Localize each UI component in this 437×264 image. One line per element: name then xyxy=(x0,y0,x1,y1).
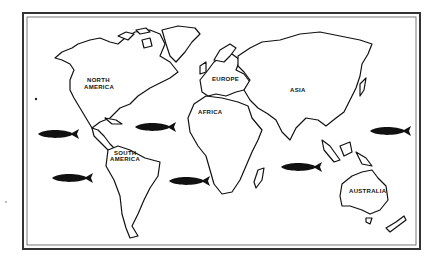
landmass-caribbean xyxy=(105,118,122,124)
fish-icon xyxy=(38,129,79,139)
label-asia: ASIA xyxy=(290,87,306,93)
speck xyxy=(35,98,37,100)
continent-north-america xyxy=(55,30,178,128)
label-south-america-line2: AMERICA xyxy=(110,156,140,162)
landmass-madagascar xyxy=(254,168,264,188)
landmass-tasmania xyxy=(366,218,372,224)
world-map: NORTH AMERICA SOUTH AMERICA EUROPE AFRIC… xyxy=(0,0,437,264)
speck xyxy=(5,201,7,203)
landmass-greenland xyxy=(162,26,200,62)
fish-icon xyxy=(52,173,93,183)
landmass-central-america xyxy=(92,128,116,150)
landmass-southeast-asia-islands xyxy=(322,140,372,166)
fish-icon xyxy=(169,176,210,186)
label-europe: EUROPE xyxy=(212,76,239,82)
label-north-america-line2: AMERICA xyxy=(84,84,114,90)
landmass-japan xyxy=(360,78,366,96)
label-australia: AUSTRALIA xyxy=(349,188,387,194)
landmass-new-zealand xyxy=(386,216,406,232)
label-africa: AFRICA xyxy=(198,109,223,115)
continent-asia xyxy=(238,32,372,140)
fish-icon xyxy=(281,162,322,172)
label-north-america-line1: NORTH xyxy=(87,77,110,83)
landmass-british-isles xyxy=(200,62,206,74)
fish-icon xyxy=(135,122,176,132)
fish-icon xyxy=(370,126,411,136)
